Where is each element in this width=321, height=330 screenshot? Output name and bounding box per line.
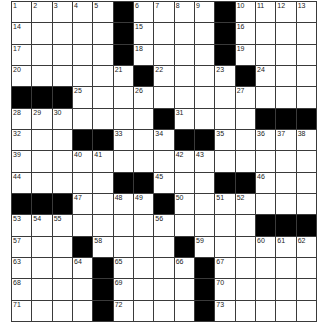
crossword-cell[interactable] — [53, 279, 72, 299]
crossword-cell[interactable] — [32, 130, 51, 150]
crossword-cell[interactable] — [93, 66, 112, 86]
crossword-cell[interactable] — [236, 151, 255, 171]
crossword-cell[interactable]: 53 — [12, 215, 31, 235]
crossword-cell[interactable]: 27 — [236, 87, 255, 107]
crossword-cell[interactable] — [154, 301, 173, 321]
crossword-cell[interactable] — [297, 194, 316, 214]
crossword-cell[interactable] — [114, 87, 133, 107]
crossword-cell[interactable] — [154, 237, 173, 257]
crossword-cell[interactable]: 45 — [154, 173, 173, 193]
crossword-cell[interactable]: 47 — [73, 194, 92, 214]
crossword-cell[interactable] — [73, 23, 92, 43]
crossword-cell[interactable] — [154, 151, 173, 171]
crossword-cell[interactable]: 34 — [154, 130, 173, 150]
crossword-cell[interactable] — [256, 194, 275, 214]
crossword-cell[interactable] — [93, 215, 112, 235]
crossword-cell[interactable]: 60 — [256, 237, 275, 257]
crossword-cell[interactable]: 28 — [12, 109, 31, 129]
crossword-cell[interactable] — [215, 237, 234, 257]
crossword-cell[interactable]: 43 — [195, 151, 214, 171]
crossword-cell[interactable] — [154, 45, 173, 65]
crossword-cell[interactable] — [93, 23, 112, 43]
crossword-cell[interactable]: 52 — [236, 194, 255, 214]
crossword-cell[interactable]: 15 — [134, 23, 153, 43]
crossword-cell[interactable] — [53, 130, 72, 150]
crossword-cell[interactable]: 69 — [114, 279, 133, 299]
crossword-cell[interactable]: 37 — [276, 130, 295, 150]
crossword-cell[interactable] — [195, 173, 214, 193]
crossword-cell[interactable]: 22 — [154, 66, 173, 86]
crossword-cell[interactable] — [154, 23, 173, 43]
crossword-cell[interactable] — [93, 194, 112, 214]
crossword-cell[interactable] — [215, 215, 234, 235]
crossword-cell[interactable]: 61 — [276, 237, 295, 257]
crossword-cell[interactable]: 18 — [134, 45, 153, 65]
crossword-cell[interactable] — [175, 301, 194, 321]
crossword-cell[interactable] — [154, 279, 173, 299]
crossword-cell[interactable]: 35 — [215, 130, 234, 150]
crossword-cell[interactable] — [236, 130, 255, 150]
crossword-cell[interactable] — [175, 23, 194, 43]
crossword-cell[interactable] — [93, 109, 112, 129]
crossword-cell[interactable]: 24 — [256, 66, 275, 86]
crossword-cell[interactable]: 66 — [175, 258, 194, 278]
crossword-cell[interactable] — [114, 215, 133, 235]
crossword-cell[interactable]: 50 — [175, 194, 194, 214]
crossword-cell[interactable] — [297, 66, 316, 86]
crossword-cell[interactable] — [73, 301, 92, 321]
crossword-cell[interactable] — [134, 215, 153, 235]
crossword-cell[interactable]: 9 — [195, 2, 214, 22]
crossword-cell[interactable] — [175, 173, 194, 193]
crossword-cell[interactable] — [93, 173, 112, 193]
crossword-cell[interactable]: 46 — [256, 173, 275, 193]
crossword-cell[interactable] — [256, 87, 275, 107]
crossword-cell[interactable] — [134, 109, 153, 129]
crossword-cell[interactable]: 12 — [276, 2, 295, 22]
crossword-cell[interactable] — [276, 45, 295, 65]
crossword-cell[interactable] — [276, 194, 295, 214]
crossword-cell[interactable] — [154, 87, 173, 107]
crossword-cell[interactable]: 8 — [175, 2, 194, 22]
crossword-cell[interactable] — [53, 301, 72, 321]
crossword-cell[interactable] — [175, 87, 194, 107]
crossword-cell[interactable] — [53, 173, 72, 193]
crossword-cell[interactable]: 51 — [215, 194, 234, 214]
crossword-cell[interactable] — [236, 237, 255, 257]
crossword-cell[interactable] — [73, 109, 92, 129]
crossword-cell[interactable]: 39 — [12, 151, 31, 171]
crossword-cell[interactable] — [134, 301, 153, 321]
crossword-cell[interactable]: 11 — [256, 2, 275, 22]
crossword-cell[interactable] — [73, 66, 92, 86]
crossword-cell[interactable] — [236, 301, 255, 321]
crossword-cell[interactable]: 33 — [114, 130, 133, 150]
crossword-cell[interactable]: 38 — [297, 130, 316, 150]
crossword-cell[interactable]: 56 — [154, 215, 173, 235]
crossword-cell[interactable] — [276, 151, 295, 171]
crossword-cell[interactable] — [175, 279, 194, 299]
crossword-cell[interactable] — [195, 87, 214, 107]
crossword-cell[interactable]: 5 — [93, 2, 112, 22]
crossword-cell[interactable]: 17 — [12, 45, 31, 65]
crossword-cell[interactable] — [276, 173, 295, 193]
crossword-cell[interactable] — [297, 258, 316, 278]
crossword-cell[interactable]: 40 — [73, 151, 92, 171]
crossword-cell[interactable] — [195, 194, 214, 214]
crossword-cell[interactable] — [276, 279, 295, 299]
crossword-cell[interactable] — [114, 237, 133, 257]
crossword-cell[interactable] — [297, 151, 316, 171]
crossword-cell[interactable] — [32, 173, 51, 193]
crossword-cell[interactable]: 73 — [215, 301, 234, 321]
crossword-cell[interactable]: 13 — [297, 2, 316, 22]
crossword-cell[interactable] — [256, 301, 275, 321]
crossword-cell[interactable]: 23 — [215, 66, 234, 86]
crossword-cell[interactable] — [53, 66, 72, 86]
crossword-cell[interactable]: 32 — [12, 130, 31, 150]
crossword-cell[interactable] — [53, 45, 72, 65]
crossword-cell[interactable] — [215, 109, 234, 129]
crossword-cell[interactable] — [53, 258, 72, 278]
crossword-cell[interactable] — [276, 258, 295, 278]
crossword-cell[interactable] — [297, 279, 316, 299]
crossword-cell[interactable] — [53, 151, 72, 171]
crossword-cell[interactable]: 68 — [12, 279, 31, 299]
crossword-cell[interactable]: 70 — [215, 279, 234, 299]
